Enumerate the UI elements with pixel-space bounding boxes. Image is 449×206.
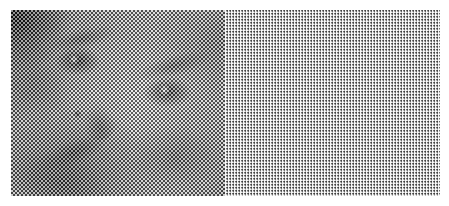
- nose-right-panel: [296, 10, 330, 14]
- panel-checkerboard-dither: [11, 10, 225, 196]
- screenshot-root: [0, 0, 449, 206]
- jaw-line-right-panel: [225, 10, 330, 29]
- nostril-left-panel: [73, 110, 82, 117]
- left-eyebrow-right-panel: [260, 10, 331, 19]
- panel-grid-mesh-dither: [225, 10, 440, 196]
- cheek-shadow-left-panel: [129, 125, 223, 188]
- halftone-comparison-figure: [11, 10, 440, 196]
- right-eyebrow-right-panel: [351, 10, 425, 21]
- grid-mesh-dither-overlay: [225, 10, 440, 196]
- right-eye-catchlight-left-panel: [159, 84, 171, 95]
- scanline-grain-right: [225, 10, 440, 196]
- mouth-right-panel: [249, 10, 325, 25]
